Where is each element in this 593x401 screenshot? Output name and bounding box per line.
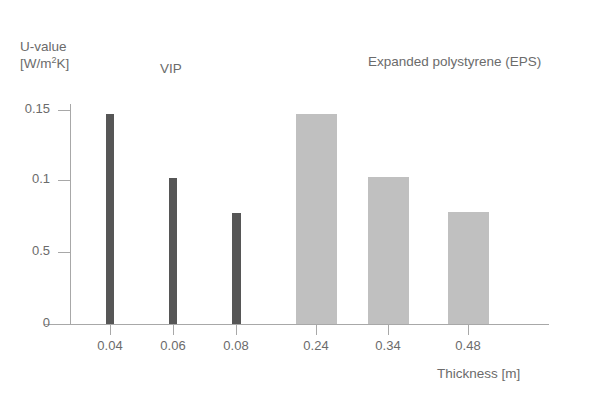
- y-axis-tick: [58, 110, 71, 111]
- y-axis-line: [70, 104, 71, 325]
- bar: [106, 114, 114, 324]
- bar: [368, 177, 409, 324]
- x-axis-tick: [236, 325, 237, 335]
- bar: [169, 178, 177, 324]
- y-axis-tick-label-wrap: 0.1: [8, 180, 50, 181]
- x-axis-line: [44, 324, 549, 325]
- x-axis-tick-label: 0.24: [286, 338, 346, 353]
- y-axis-tick-label: 0: [10, 315, 50, 330]
- bar: [448, 212, 489, 324]
- plot-area: 0.150.10.50 0.040.060.080.240.340.48: [0, 0, 593, 401]
- x-axis-tick-label: 0.48: [438, 338, 498, 353]
- y-axis-tick-label-wrap: 0.5: [8, 252, 50, 253]
- x-axis-tick-label: 0.08: [206, 338, 266, 353]
- x-axis-title: Thickness [m]: [437, 366, 520, 381]
- y-axis-tick: [58, 180, 71, 181]
- x-axis-tick: [316, 325, 317, 335]
- x-axis-tick-label: 0.34: [358, 338, 418, 353]
- y-axis-tick-label: 0.5: [10, 243, 50, 258]
- y-axis-tick: [58, 252, 71, 253]
- y-axis-tick-label: 0.15: [10, 101, 50, 116]
- y-axis-tick: [58, 324, 71, 325]
- x-axis-tick: [173, 325, 174, 335]
- x-axis-tick: [468, 325, 469, 335]
- x-axis-tick: [388, 325, 389, 335]
- x-axis-tick-label: 0.04: [80, 338, 140, 353]
- y-axis-tick-label-wrap: 0.15: [8, 110, 50, 111]
- bar-chart: U-value [W/m2K] VIP Expanded polystyrene…: [0, 0, 593, 401]
- bar: [296, 114, 337, 324]
- y-axis-tick-label: 0.1: [10, 171, 50, 186]
- x-axis-tick-label: 0.06: [143, 338, 203, 353]
- y-axis-tick-label-wrap: 0: [8, 324, 50, 325]
- x-axis-tick: [110, 325, 111, 335]
- bar: [232, 213, 241, 324]
